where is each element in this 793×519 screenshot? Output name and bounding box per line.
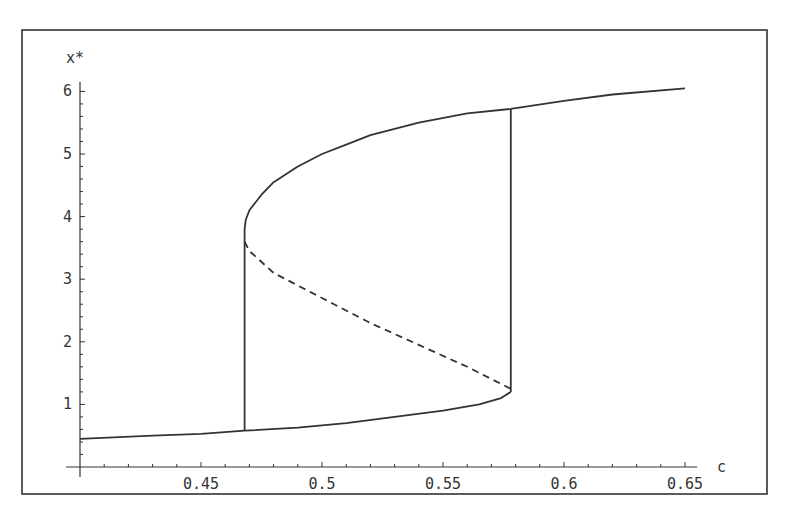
unstable-branch-line: [245, 242, 511, 389]
y-tick-label: 3: [63, 270, 72, 288]
plot-frame: [22, 30, 767, 494]
y-tick-label: 1: [63, 395, 72, 413]
y-tick-label: 2: [63, 333, 72, 351]
series-group: [80, 88, 685, 439]
x-tick-label: 0.45: [183, 475, 219, 493]
x-tick-label: 0.5: [308, 475, 335, 493]
y-tick-label: 5: [63, 145, 72, 163]
y-tick-label: 4: [63, 208, 72, 226]
x-tick-label: 0.6: [550, 475, 577, 493]
upper-stable-branch-line: [245, 88, 685, 229]
bifurcation-chart: 0.450.50.550.60.65123456 c x*: [0, 0, 793, 519]
lower-stable-branch-line: [80, 392, 511, 439]
y-tick-label: 6: [63, 82, 72, 100]
x-tick-label: 0.55: [425, 475, 461, 493]
x-axis-label: c: [717, 458, 726, 476]
x-tick-label: 0.65: [667, 475, 703, 493]
axes: 0.450.50.550.60.65123456: [63, 82, 703, 493]
y-axis-label: x*: [66, 49, 84, 67]
